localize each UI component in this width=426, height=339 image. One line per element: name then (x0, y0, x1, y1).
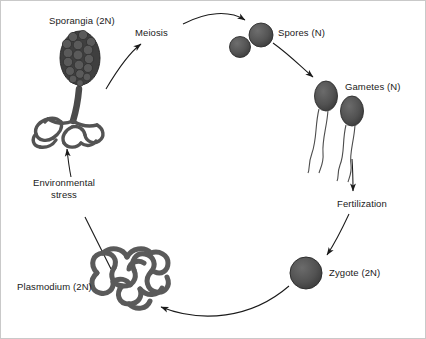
arrow-spores-to-gametes (273, 43, 313, 77)
label-plasmodium: Plasmodium (2N) (17, 281, 92, 293)
arrow-meiosis (106, 14, 245, 89)
plasmodium-organism (92, 249, 168, 308)
sporangium-organism (33, 30, 103, 147)
label-fertilization: Fertilization (337, 198, 387, 210)
gametes-organism (308, 81, 364, 182)
label-environmental-stress: Environmental stress (19, 177, 109, 200)
label-gametes: Gametes (N) (345, 81, 400, 93)
life-cycle-figure: Sporangia (2N) Meiosis Spores (N) Gamete… (0, 0, 426, 339)
label-spores: Spores (N) (278, 27, 325, 39)
spores-organism (230, 23, 274, 58)
arrow-zygote-to-plasmodium (161, 286, 289, 316)
zygote-organism (290, 257, 322, 289)
label-sporangia: Sporangia (2N) (49, 15, 115, 27)
label-zygote: Zygote (2N) (329, 267, 380, 279)
label-meiosis: Meiosis (135, 27, 168, 39)
